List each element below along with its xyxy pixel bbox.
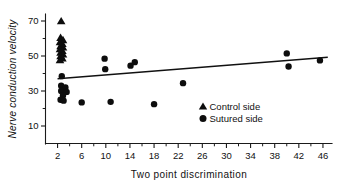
series-control-side-markers [56, 17, 68, 63]
data-point-sutured-side [285, 63, 291, 69]
x-tick-label: 42 [294, 150, 305, 161]
y-tick-label: 50 [28, 50, 39, 61]
chart-legend: Control side Sutured side [199, 101, 263, 124]
x-tick-label: 18 [149, 150, 160, 161]
data-point-sutured-side [132, 59, 138, 65]
legend-circle-icon [200, 115, 207, 122]
data-point-sutured-side [284, 50, 290, 56]
x-tick-label: 26 [197, 150, 208, 161]
data-point-sutured-side [107, 99, 113, 105]
y-axis-tick-labels: 10305070 [28, 15, 39, 131]
data-point-control-side [57, 17, 66, 24]
x-tick-label: 14 [125, 150, 136, 161]
y-tick-label: 30 [28, 85, 39, 96]
legend-label-sutured-side: Sutured side [210, 113, 263, 124]
data-point-sutured-side [317, 57, 323, 63]
data-point-sutured-side [78, 99, 84, 105]
x-tick-label: 46 [318, 150, 329, 161]
data-point-sutured-side [59, 73, 65, 79]
series-sutured-side-markers [57, 50, 323, 107]
data-point-sutured-side [102, 66, 108, 72]
legend-label-control-side: Control side [210, 101, 261, 112]
x-tick-label: 30 [221, 150, 232, 161]
x-tick-label: 34 [245, 150, 256, 161]
x-tick-label: 6 [79, 150, 84, 161]
y-tick-label: 70 [28, 15, 39, 26]
x-tick-label: 10 [101, 150, 112, 161]
x-tick-label: 22 [173, 150, 184, 161]
data-point-sutured-side [180, 80, 186, 86]
chart-canvas: 10305070 2610141822263034384246 Two poin… [0, 0, 338, 187]
data-point-sutured-side [151, 101, 157, 107]
x-tick-label: 2 [55, 150, 60, 161]
x-axis-title: Two point discrimination [131, 169, 247, 180]
data-point-sutured-side [101, 55, 107, 61]
data-point-sutured-side [60, 97, 66, 103]
y-axis-title: Nerve conduction velocity [7, 19, 18, 139]
x-axis-tick-labels: 2610141822263034384246 [55, 150, 328, 161]
figure-scatter-plot: 10305070 2610141822263034384246 Two poin… [0, 0, 338, 187]
y-tick-label: 10 [28, 120, 39, 131]
x-tick-label: 38 [269, 150, 280, 161]
legend-triangle-icon [199, 103, 207, 110]
